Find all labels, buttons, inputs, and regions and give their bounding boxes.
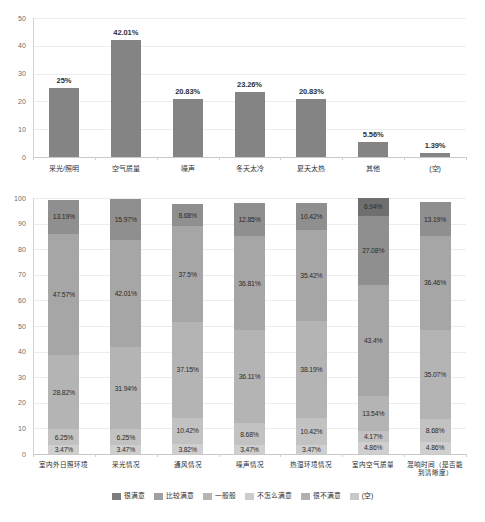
legend-swatch bbox=[203, 493, 212, 500]
segment-value-label: 4.86% bbox=[352, 444, 395, 451]
x-axis-tick bbox=[33, 157, 34, 160]
segment-value-label: 8.68% bbox=[414, 427, 457, 434]
x-axis-tick bbox=[342, 157, 343, 160]
y-axis-tick-label: 40 bbox=[0, 42, 26, 49]
segment-value-label: 36.46% bbox=[414, 279, 457, 286]
segment-value-label: 35.07% bbox=[414, 371, 457, 378]
stacked-bar: 3.82%10.42%37.15%37.5%8.68% bbox=[172, 198, 203, 454]
segment-value-label: 10.42% bbox=[290, 428, 333, 435]
bar-value-label: 23.26% bbox=[220, 81, 280, 89]
legend-item: (空) bbox=[350, 492, 374, 500]
y-axis-tick-label: 30 bbox=[0, 70, 26, 77]
segment-value-label: 42.01% bbox=[104, 290, 147, 297]
y-axis-tick-label: 40 bbox=[0, 348, 26, 355]
legend-item: 一般般 bbox=[203, 492, 236, 500]
gridline bbox=[33, 74, 466, 75]
stacked-bar: 3.47%8.68%36.11%36.81%12.85% bbox=[234, 198, 265, 454]
segment-value-label: 36.11% bbox=[228, 373, 271, 380]
bar-value-label: 42.01% bbox=[96, 29, 156, 37]
segment-value-label: 28.82% bbox=[42, 389, 85, 396]
legend-item: 比较满意 bbox=[154, 492, 194, 500]
bar bbox=[420, 153, 450, 157]
category-label-line: 室内空气质量 bbox=[340, 461, 406, 469]
x-axis-category-label: 空气质量 bbox=[92, 165, 160, 173]
stacked-bar: 4.86%4.17%13.54%43.4%27.08%6.94% bbox=[358, 198, 389, 454]
x-axis-tick bbox=[466, 454, 467, 457]
legend-swatch bbox=[154, 493, 163, 500]
x-axis-category-label: 噪声情况 bbox=[217, 461, 283, 469]
segment-value-label: 15.97% bbox=[104, 216, 147, 223]
category-label-line: 室内外日照环境 bbox=[31, 461, 97, 469]
y-axis-tick-label: 0 bbox=[0, 451, 26, 458]
category-label-line: 采光情况 bbox=[93, 461, 159, 469]
legend-item: 很满意 bbox=[112, 492, 145, 500]
y-axis-tick-label: 20 bbox=[0, 98, 26, 105]
segment-value-label: 10.42% bbox=[290, 213, 333, 220]
top-bar-chart: 0102030405025%采光/照明42.01%空气质量20.83%噪声23.… bbox=[0, 0, 485, 180]
x-axis-tick bbox=[95, 454, 96, 457]
segment-value-label: 8.68% bbox=[166, 212, 209, 219]
x-axis-tick bbox=[404, 454, 405, 457]
segment-value-label: 13.54% bbox=[352, 410, 395, 417]
y-axis-tick-label: 0 bbox=[0, 154, 26, 161]
chart-legend: 很满意比较满意一般般不怎么满意很不满意(空) bbox=[0, 492, 485, 500]
x-axis-category-label: 夏天太热 bbox=[277, 165, 345, 173]
y-axis-tick-label: 50 bbox=[0, 323, 26, 330]
bar bbox=[296, 99, 326, 157]
x-axis-tick bbox=[219, 454, 220, 457]
legend-swatch bbox=[112, 493, 121, 500]
legend-swatch bbox=[245, 493, 254, 500]
legend-label: 很不满意 bbox=[313, 492, 341, 500]
x-axis-tick bbox=[219, 157, 220, 160]
segment-value-label: 3.47% bbox=[228, 446, 271, 453]
x-axis-tick bbox=[342, 454, 343, 457]
y-axis-tick-label: 100 bbox=[0, 195, 26, 202]
stacked-bar: 4.86%8.68%35.07%36.46%13.19% bbox=[420, 198, 451, 454]
segment-value-label: 31.94% bbox=[104, 385, 147, 392]
legend-label: (空) bbox=[362, 492, 374, 500]
segment-value-label: 43.4% bbox=[352, 337, 395, 344]
y-axis-tick-label: 90 bbox=[0, 220, 26, 227]
legend-label: 不怎么满意 bbox=[257, 492, 292, 500]
segment-value-label: 35.42% bbox=[290, 272, 333, 279]
segment-value-label: 36.81% bbox=[228, 280, 271, 287]
x-axis-category-label: (空) bbox=[401, 165, 469, 173]
x-axis-category-label: 热湿环境情况 bbox=[278, 461, 344, 469]
segment-value-label: 13.19% bbox=[414, 216, 457, 223]
segment-value-label: 27.08% bbox=[352, 247, 395, 254]
category-label-line: 到清晰度） bbox=[402, 469, 468, 477]
y-axis-tick-label: 20 bbox=[0, 399, 26, 406]
bar bbox=[173, 99, 203, 157]
bar-value-label: 25% bbox=[34, 77, 94, 85]
segment-value-label: 10.42% bbox=[166, 427, 209, 434]
segment-value-label: 6.25% bbox=[104, 434, 147, 441]
segment-value-label: 13.19% bbox=[42, 213, 85, 220]
gridline bbox=[33, 46, 466, 47]
segment-value-label: 6.94% bbox=[352, 203, 395, 210]
gridline bbox=[33, 157, 466, 158]
x-axis-tick bbox=[280, 157, 281, 160]
x-axis-category-label: 冬天太冷 bbox=[216, 165, 284, 173]
x-axis-tick bbox=[95, 157, 96, 160]
x-axis-category-label: 室内空气质量 bbox=[340, 461, 406, 469]
legend-label: 很满意 bbox=[124, 492, 145, 500]
x-axis-category-label: 通风情况 bbox=[155, 461, 221, 469]
y-axis-line bbox=[33, 198, 34, 454]
y-axis-tick-label: 70 bbox=[0, 271, 26, 278]
segment-value-label: 8.68% bbox=[228, 431, 271, 438]
gridline bbox=[33, 454, 466, 455]
segment-value-label: 47.57% bbox=[42, 291, 85, 298]
y-axis-tick-label: 50 bbox=[0, 15, 26, 22]
x-axis-category-label: 采光/照明 bbox=[30, 165, 98, 173]
x-axis-tick bbox=[404, 157, 405, 160]
category-label-line: 混响时间（是否能 bbox=[402, 461, 468, 469]
x-axis-tick bbox=[280, 454, 281, 457]
y-axis-tick-label: 60 bbox=[0, 297, 26, 304]
segment-value-label: 3.47% bbox=[42, 446, 85, 453]
stacked-bar: 3.47%10.42%38.19%35.42%10.42% bbox=[296, 198, 327, 454]
y-axis-line bbox=[33, 18, 34, 157]
legend-item: 不怎么满意 bbox=[245, 492, 292, 500]
bar bbox=[235, 92, 265, 157]
x-axis-category-label: 其他 bbox=[339, 165, 407, 173]
legend-swatch bbox=[301, 493, 310, 500]
